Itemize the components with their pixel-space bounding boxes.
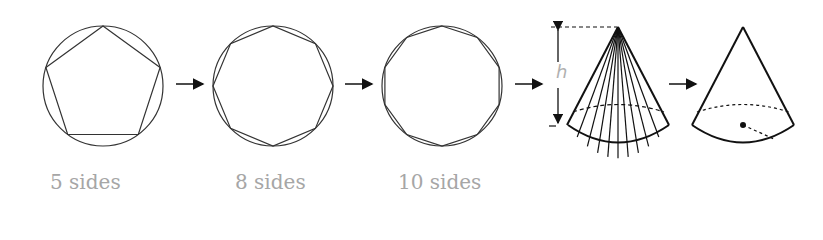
decagon-in-circle <box>382 26 502 146</box>
height-label: h <box>556 62 567 82</box>
label-8-sides: 8 sides <box>235 170 306 194</box>
cone <box>692 27 794 143</box>
label-5-sides: 5 sides <box>50 170 121 194</box>
octagon-in-circle <box>213 26 333 146</box>
pentagon-in-circle <box>43 26 163 146</box>
label-10-sides: 10 sides <box>398 170 481 194</box>
pyramid-cone <box>549 27 669 158</box>
